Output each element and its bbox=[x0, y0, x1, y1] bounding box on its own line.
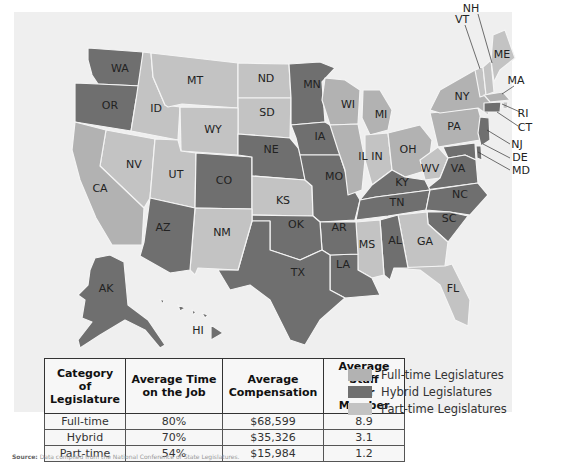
state-label-nc: NC bbox=[452, 188, 468, 201]
state-label-la: LA bbox=[336, 258, 350, 271]
state-label-or: OR bbox=[102, 99, 119, 112]
full-time-swatch bbox=[348, 369, 372, 381]
cell-category: Full-time bbox=[45, 414, 126, 430]
state-label-mo: MO bbox=[325, 170, 343, 183]
state-de bbox=[476, 146, 482, 160]
cell-avg-compensation: $68,599 bbox=[223, 414, 324, 430]
state-label-ar: AR bbox=[331, 221, 347, 234]
state-ct bbox=[484, 102, 501, 112]
state-label-tx: TX bbox=[290, 266, 306, 279]
state-label-oh: OH bbox=[400, 143, 417, 156]
state-label-wy: WY bbox=[204, 123, 222, 136]
state-label-nd: ND bbox=[258, 72, 275, 85]
state-label-hi: HI bbox=[192, 324, 204, 337]
state-label-ks: KS bbox=[276, 194, 290, 207]
state-label-ak: AK bbox=[99, 282, 115, 295]
state-label-tn: TN bbox=[389, 196, 405, 209]
state-label-md: MD bbox=[512, 164, 530, 177]
state-az bbox=[140, 198, 195, 273]
state-label-pa: PA bbox=[447, 120, 461, 133]
legend-item-full-time: Full-time Legislatures bbox=[348, 366, 507, 383]
us-legislature-map: WAORIDMTNDSDWYNVCAUTCONEKSMNIAMOWIMIILIN… bbox=[0, 0, 570, 380]
state-label-in: IN bbox=[371, 150, 382, 163]
header-avg-time: Average Timeon the Job bbox=[126, 359, 223, 414]
state-label-id: ID bbox=[150, 102, 162, 115]
state-label-nv: NV bbox=[126, 158, 142, 171]
state-label-wa: WA bbox=[111, 62, 129, 75]
state-label-ny: NY bbox=[455, 90, 470, 103]
legend-label: Part-time Legislatures bbox=[381, 402, 507, 416]
source-note: Source: Data compiled from the National … bbox=[12, 453, 240, 460]
state-label-ga: GA bbox=[417, 235, 434, 248]
state-label-mi: MI bbox=[375, 108, 388, 121]
state-label-ma: MA bbox=[507, 74, 524, 87]
state-nj bbox=[478, 117, 490, 146]
header-avg-compensation: AverageCompensation bbox=[223, 359, 324, 414]
header-category: Category ofLegislature bbox=[45, 359, 126, 414]
state-label-al: AL bbox=[388, 234, 403, 247]
state-label-nm: NM bbox=[213, 226, 231, 239]
state-label-ia: IA bbox=[315, 130, 326, 143]
cell-avg-compensation: $35,326 bbox=[223, 430, 324, 446]
part-time-swatch bbox=[348, 403, 372, 415]
state-label-az: AZ bbox=[155, 221, 171, 234]
state-label-sd: SD bbox=[259, 106, 274, 119]
state-label-nh: NH bbox=[463, 2, 480, 15]
state-label-ms: MS bbox=[359, 238, 375, 251]
cell-avg-staff: 1.2 bbox=[324, 446, 405, 462]
state-label-de: DE bbox=[512, 151, 527, 164]
state-label-il: IL bbox=[358, 150, 368, 163]
state-label-nj: NJ bbox=[511, 138, 522, 151]
state-ak bbox=[78, 255, 165, 348]
legend-label: Hybrid Legislatures bbox=[381, 385, 492, 399]
state-label-ky: KY bbox=[395, 176, 409, 189]
table-row: Hybrid 70% $35,326 3.1 bbox=[45, 430, 405, 446]
state-label-ok: OK bbox=[288, 218, 305, 231]
hybrid-swatch bbox=[348, 386, 372, 398]
state-fl bbox=[392, 264, 470, 326]
legend-item-hybrid: Hybrid Legislatures bbox=[348, 383, 507, 400]
state-label-wi: WI bbox=[341, 98, 355, 111]
state-label-fl: FL bbox=[447, 282, 460, 295]
state-label-ne: NE bbox=[263, 143, 278, 156]
map-legend: Full-time Legislatures Hybrid Legislatur… bbox=[348, 366, 507, 417]
state-label-sc: SC bbox=[442, 212, 457, 225]
state-label-me: ME bbox=[494, 48, 510, 61]
state-label-mn: MN bbox=[303, 78, 321, 91]
state-label-ca: CA bbox=[92, 182, 108, 195]
state-label-mt: MT bbox=[187, 74, 203, 87]
state-label-ri: RI bbox=[518, 107, 529, 120]
state-label-wv: WV bbox=[421, 162, 440, 175]
cell-avg-time: 80% bbox=[126, 414, 223, 430]
legend-item-part-time: Part-time Legislatures bbox=[348, 400, 507, 417]
cell-avg-time: 70% bbox=[126, 430, 223, 446]
state-label-ut: UT bbox=[169, 168, 184, 181]
state-label-ct: CT bbox=[518, 121, 533, 134]
cell-avg-staff: 3.1 bbox=[324, 430, 405, 446]
state-label-va: VA bbox=[451, 162, 466, 175]
legend-label: Full-time Legislatures bbox=[381, 368, 504, 382]
cell-category: Hybrid bbox=[45, 430, 126, 446]
state-label-co: CO bbox=[216, 174, 233, 187]
